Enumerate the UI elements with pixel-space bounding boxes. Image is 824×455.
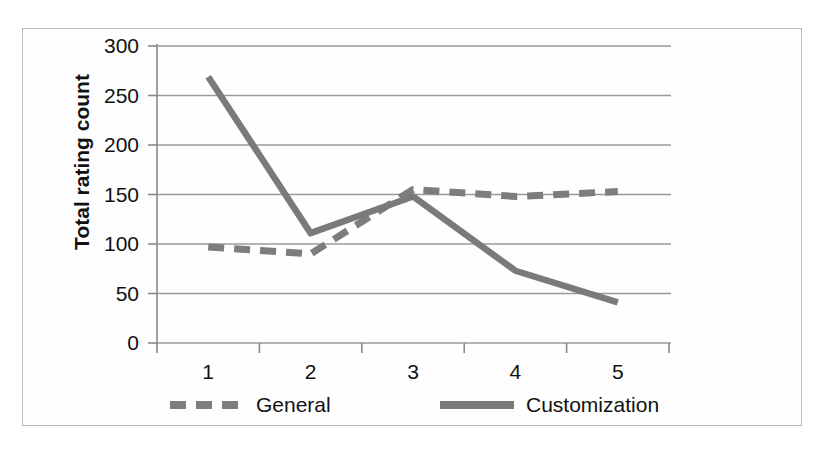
line-chart: Total rating count 300250200150100500 12… bbox=[0, 0, 824, 455]
y-tick-label: 100 bbox=[83, 233, 139, 254]
chart-canvas bbox=[0, 0, 824, 455]
y-tick-label: 50 bbox=[83, 283, 139, 304]
legend-item-customization: Customization bbox=[440, 390, 659, 420]
y-tick-label: 300 bbox=[83, 35, 139, 56]
legend-item-general: General bbox=[170, 390, 331, 420]
x-tick-label: 4 bbox=[495, 361, 535, 382]
legend-swatch-solid-icon bbox=[440, 401, 514, 409]
series-layer bbox=[208, 77, 618, 303]
y-tick-label: 250 bbox=[83, 85, 139, 106]
y-tick-label: 150 bbox=[83, 184, 139, 205]
x-tick-label: 3 bbox=[393, 361, 433, 382]
chart-legend: General Customization bbox=[160, 390, 680, 424]
x-tick-label: 2 bbox=[291, 361, 331, 382]
y-tick-label: 200 bbox=[83, 134, 139, 155]
legend-swatch-dashed-icon bbox=[170, 401, 244, 409]
y-tick-label: 0 bbox=[83, 332, 139, 353]
x-tick-label: 5 bbox=[598, 361, 638, 382]
legend-label-customization: Customization bbox=[526, 393, 659, 417]
x-tick-label: 1 bbox=[188, 361, 228, 382]
legend-label-general: General bbox=[256, 393, 331, 417]
